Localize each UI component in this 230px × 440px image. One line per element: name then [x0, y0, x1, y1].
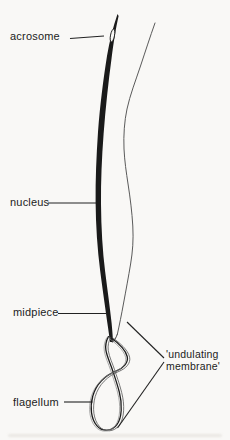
sperm-diagram-canvas	[0, 0, 230, 440]
membrane-pointer-lower	[118, 362, 165, 428]
undulating-membrane-label-line1: 'undulating	[166, 349, 220, 361]
acrosome-label: acrosome	[10, 30, 60, 42]
undulating-membrane-label: 'undulating membrane'	[166, 349, 220, 372]
sperm-cell-figure: acrosome nucleus midpiece flagellum 'und…	[0, 0, 230, 440]
membrane-pointer-upper	[127, 322, 164, 358]
nucleus-label: nucleus	[10, 196, 49, 208]
undulating-membrane-label-line2: membrane'	[166, 361, 220, 373]
nucleus-body	[96, 14, 119, 342]
undulating-membrane-edge	[117, 23, 155, 334]
acrosome-tip	[109, 29, 115, 43]
acrosome-leader-line	[70, 36, 104, 39]
flagellum-label: flagellum	[13, 396, 59, 408]
scan-artifact	[8, 434, 222, 437]
midpiece-label: midpiece	[13, 306, 59, 318]
